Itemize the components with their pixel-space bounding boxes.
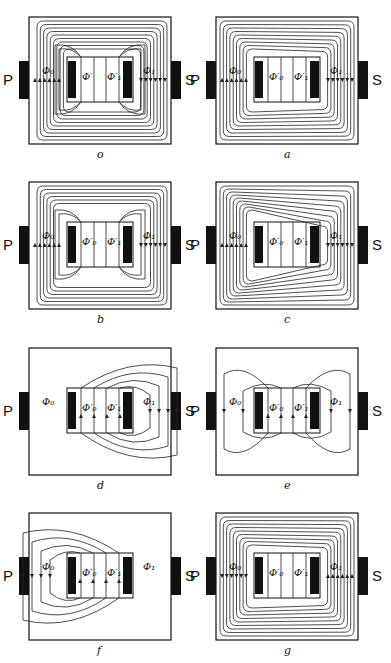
phi1-prime-label: Φ′₁ [107, 567, 121, 578]
phi0-label: Φ₀ [229, 396, 241, 407]
phi1-label: Φ₁ [330, 230, 342, 241]
flux-arrow-down [222, 409, 226, 413]
inner-primary-coil [68, 392, 76, 429]
panel-caption: c [284, 313, 290, 326]
primary-coil [19, 226, 29, 264]
secondary-coil [171, 61, 181, 99]
panel-c: PSΦ₀Φ′₀Φ′₁Φ₁c [190, 182, 382, 326]
inner-primary-coil [255, 557, 263, 594]
phi0-prime-label: Φ′₀ [269, 567, 283, 578]
flux-arrow-up [38, 78, 42, 82]
phi0-prime-label: Φ′₀ [269, 236, 283, 247]
inner-secondary-coil [123, 61, 132, 98]
secondary-label: S [372, 402, 382, 419]
flux-arrow-up [345, 574, 349, 578]
flux-arrow-down [48, 574, 52, 578]
primary-coil [206, 557, 216, 595]
primary-label: P [3, 402, 13, 419]
flux-arrow-up [244, 243, 248, 247]
phi0-label: Φ₀ [229, 561, 241, 572]
secondary-label: S [372, 71, 382, 88]
flux-arrow-up [47, 78, 51, 82]
inner-primary-coil [255, 226, 263, 263]
phi0-prime-label: Φ′₀ [82, 236, 96, 247]
phi0-label: Φ₀ [42, 561, 54, 572]
inner-secondary-coil [123, 392, 132, 429]
panel-caption: g [284, 644, 291, 657]
panel-caption: f [96, 644, 103, 657]
secondary-coil [171, 226, 181, 264]
phi1-label: Φ₁ [143, 230, 155, 241]
flux-arrow-down [241, 409, 245, 413]
flux-arrow-down [336, 243, 340, 247]
flux-arrow-down [149, 78, 153, 82]
flux-arrow-up [225, 243, 229, 247]
flux-arrow-down [336, 78, 340, 82]
primary-coil [206, 226, 216, 264]
inner-secondary-coil [310, 557, 319, 594]
flux-arrow-up [52, 78, 56, 82]
primary-label: P [190, 71, 200, 88]
inner-primary-coil [255, 61, 263, 98]
phi1-prime-label: Φ′₁ [294, 71, 308, 82]
panel-g: PSΦ₀Φ′₀Φ′₁Φ₁g [190, 513, 382, 657]
flux-arrow-down [244, 574, 248, 578]
flux-arrow-up [336, 574, 340, 578]
flux-arrow-down [225, 574, 229, 578]
secondary-label: S [372, 567, 382, 584]
panel-d: PSΦ₀Φ′₀Φ′₁Φ₁d [3, 348, 195, 492]
inner-primary-coil [68, 226, 76, 263]
primary-label: P [190, 236, 200, 253]
panel-caption: d [97, 479, 104, 492]
phi1-prime-label: Φ′₁ [107, 402, 121, 413]
panel-o: PSΦ₀Φ′Φ′₁Φ₁o [3, 17, 195, 161]
flux-arrow-down [30, 574, 34, 578]
flux-arrow-up [234, 243, 238, 247]
flux-arrow-up [52, 243, 56, 247]
flux-arrow-up [47, 243, 51, 247]
phi0-prime-label: Φ′₀ [269, 402, 283, 413]
flux-arrow-up [225, 78, 229, 82]
phi1-prime-label: Φ′₁ [107, 71, 121, 82]
flux-arrow-down [149, 243, 153, 247]
phi1-prime-label: Φ′₁ [294, 567, 308, 578]
secondary-label: S [372, 236, 382, 253]
phi1-label: Φ₁ [330, 65, 342, 76]
flux-arrow-down [348, 409, 352, 413]
transformer-flux-figure: PSΦ₀Φ′Φ′₁Φ₁oPSΦ₀Φ′₀Φ′₁Φ₁aPSΦ₀Φ′₀Φ′₁Φ₁bPS… [0, 0, 391, 663]
phi1-label: Φ₁ [143, 65, 155, 76]
panel-e: PSΦ₀Φ′₀Φ′₁Φ₁e [190, 348, 382, 492]
phi1-prime-label: Φ′₁ [107, 236, 121, 247]
phi0-prime-label: Φ′₀ [82, 567, 96, 578]
inner-secondary-coil [310, 61, 319, 98]
flux-arrow-down [166, 409, 170, 413]
flux-arrow-down [345, 78, 349, 82]
flux-arrow-down [148, 409, 152, 413]
primary-coil [206, 392, 216, 430]
flux-arrow-up [326, 574, 330, 578]
phi0-label: Φ₀ [229, 230, 241, 241]
inner-secondary-coil [310, 392, 319, 429]
flux-arrow-down [234, 574, 238, 578]
primary-label: P [3, 567, 13, 584]
secondary-coil [358, 61, 368, 99]
flux-arrow-up [234, 78, 238, 82]
panel-b: PSΦ₀Φ′₀Φ′₁Φ₁b [3, 182, 195, 326]
phi0-label: Φ₀ [42, 396, 54, 407]
phi1-prime-label: Φ′₁ [294, 402, 308, 413]
primary-coil [206, 61, 216, 99]
flux-arrow-down [157, 409, 161, 413]
inner-primary-coil [68, 61, 76, 98]
secondary-coil [358, 392, 368, 430]
inner-secondary-coil [123, 226, 132, 263]
inner-primary-coil [68, 557, 76, 594]
secondary-coil [358, 557, 368, 595]
phi0-label: Φ₀ [42, 65, 54, 76]
secondary-coil [171, 557, 181, 595]
primary-label: P [190, 402, 200, 419]
flux-arrow-down [158, 78, 162, 82]
secondary-coil [358, 226, 368, 264]
inner-primary-coil [255, 392, 263, 429]
panel-caption: b [97, 313, 104, 326]
panel-f: PSΦ₀Φ′₀Φ′₁Φ₁f [3, 513, 195, 657]
